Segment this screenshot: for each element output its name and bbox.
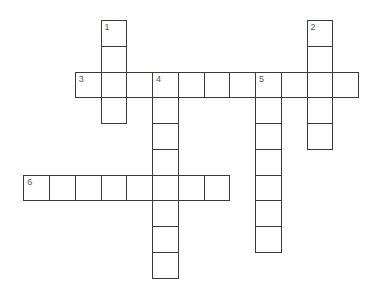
crossword-grid: 123456 [0,0,380,294]
crossword-cell[interactable]: 3 [75,72,102,99]
crossword-cell[interactable] [152,149,179,176]
crossword-cell[interactable] [152,123,179,150]
crossword-cell[interactable] [75,175,102,202]
crossword-cell[interactable] [152,226,179,253]
crossword-cell[interactable] [126,72,153,99]
crossword-cell[interactable] [126,175,153,202]
crossword-cell[interactable] [255,97,282,124]
clue-number: 2 [311,22,316,32]
crossword-cell[interactable] [229,72,256,99]
crossword-cell[interactable] [152,175,179,202]
crossword-cell[interactable] [101,97,128,124]
crossword-cell[interactable] [49,175,76,202]
crossword-cell[interactable] [152,97,179,124]
clue-number: 6 [27,177,32,187]
crossword-cell[interactable] [281,72,308,99]
clue-number: 3 [79,74,84,84]
crossword-cell[interactable] [101,175,128,202]
crossword-cell[interactable] [204,72,231,99]
crossword-cell[interactable] [178,72,205,99]
crossword-cell[interactable] [307,97,334,124]
crossword-cell[interactable] [204,175,231,202]
crossword-cell[interactable] [307,123,334,150]
crossword-cell[interactable]: 5 [255,72,282,99]
crossword-cell[interactable] [255,200,282,227]
crossword-cell[interactable] [152,252,179,279]
crossword-cell[interactable] [101,72,128,99]
crossword-cell[interactable] [307,46,334,73]
crossword-cell[interactable] [152,200,179,227]
crossword-cell[interactable] [255,123,282,150]
crossword-cell[interactable]: 1 [101,20,128,47]
crossword-cell[interactable]: 6 [23,175,50,202]
crossword-cell[interactable]: 4 [152,72,179,99]
crossword-cell[interactable] [332,72,359,99]
clue-number: 1 [105,22,110,32]
crossword-cell[interactable] [255,175,282,202]
crossword-cell[interactable]: 2 [307,20,334,47]
clue-number: 5 [259,74,264,84]
crossword-cell[interactable] [101,46,128,73]
clue-number: 4 [156,74,161,84]
crossword-cell[interactable] [307,72,334,99]
crossword-cell[interactable] [255,149,282,176]
crossword-cell[interactable] [255,226,282,253]
crossword-cell[interactable] [178,175,205,202]
